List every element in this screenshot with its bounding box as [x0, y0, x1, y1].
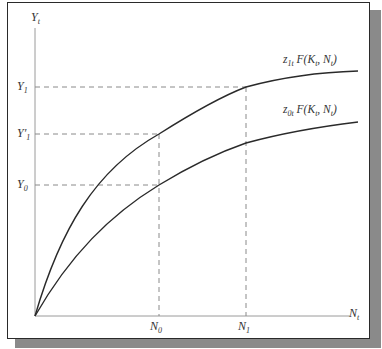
x-tick-n0: N0: [150, 319, 162, 335]
curve-label-z-sub: 1t: [287, 59, 293, 68]
x-tick-sub: 1: [246, 326, 250, 335]
y-tick-y1: Y1: [17, 79, 28, 95]
y-axis-label-sub: t: [38, 17, 40, 26]
x-axis-label: Nt: [349, 306, 359, 322]
y-tick-y0: Y0: [17, 177, 28, 193]
curve-label-mid: , N: [317, 53, 330, 65]
curve-label-mid: , N: [317, 103, 330, 115]
curve-label-func: F(K: [297, 53, 316, 65]
y-axis-label: Yt: [31, 10, 40, 26]
y-tick-main: Y: [17, 126, 24, 140]
x-tick-main: N: [238, 319, 246, 333]
y-tick-main: Y: [17, 177, 24, 191]
curve-label-func: F(K: [297, 103, 316, 115]
y-tick-sub: 1: [26, 133, 30, 142]
curve-label-z-sub: 0t: [287, 109, 293, 118]
curve-label-upper: z1t F(Kt, Nt): [283, 53, 337, 68]
x-tick-main: N: [150, 319, 158, 333]
curve-label-lower: z0t F(Kt, Nt): [283, 103, 337, 118]
y-tick-sub: 1: [24, 86, 28, 95]
y-tick-sub: 0: [24, 184, 28, 193]
x-tick-sub: 0: [158, 326, 162, 335]
y-tick-main: Y: [17, 79, 24, 93]
x-tick-n1: N1: [238, 319, 250, 335]
curve-z0-production: [35, 122, 358, 316]
y-axis-label-main: Y: [31, 10, 38, 24]
x-axis-label-sub: t: [357, 313, 359, 322]
y-tick-y1-prime: Y′1: [17, 126, 30, 142]
x-axis-label-main: N: [349, 306, 357, 320]
curve-label-close: ): [333, 53, 337, 65]
curve-label-close: ): [333, 103, 337, 115]
